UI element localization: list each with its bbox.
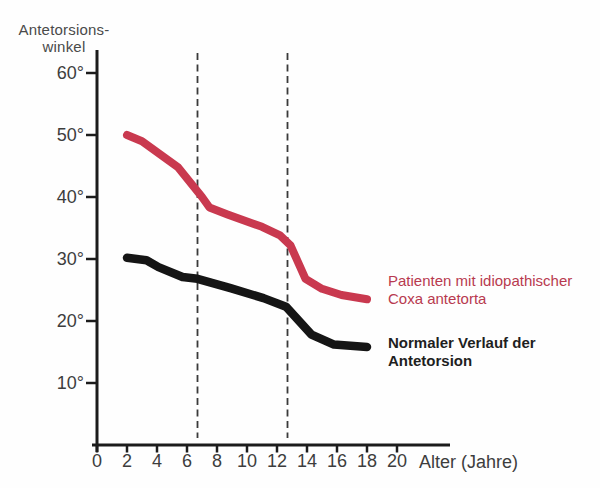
legend-black-line2: Antetorsion bbox=[388, 352, 536, 370]
y-tick-label: 10° bbox=[57, 373, 84, 393]
legend-red-line2: Coxa antetorta bbox=[388, 290, 572, 308]
y-tick-label: 60° bbox=[57, 63, 84, 83]
y-axis-title-line1: Antetorsions- bbox=[8, 21, 120, 38]
x-tick-label: 0 bbox=[92, 451, 102, 471]
x-axis-label: Alter (Jahre) bbox=[419, 452, 518, 473]
x-tick-label: 12 bbox=[267, 451, 287, 471]
x-tick-label: 18 bbox=[357, 451, 377, 471]
y-tick-label: 50° bbox=[57, 125, 84, 145]
chart-canvas: 60°50°40°30°20°10°02468101214161820 bbox=[0, 0, 600, 488]
y-axis-title: Antetorsions- winkel bbox=[8, 21, 120, 55]
x-tick-label: 6 bbox=[182, 451, 192, 471]
y-tick-label: 30° bbox=[57, 249, 84, 269]
y-tick-label: 20° bbox=[57, 311, 84, 331]
legend-black-series: Normaler Verlauf der Antetorsion bbox=[388, 334, 536, 370]
x-tick-label: 10 bbox=[237, 451, 257, 471]
x-tick-label: 2 bbox=[122, 451, 132, 471]
chart-figure: 60°50°40°30°20°10°02468101214161820 Ante… bbox=[0, 0, 600, 488]
legend-red-series: Patienten mit idiopathischer Coxa anteto… bbox=[388, 272, 572, 308]
x-tick-label: 4 bbox=[152, 451, 162, 471]
x-tick-label: 8 bbox=[212, 451, 222, 471]
y-axis-title-line2: winkel bbox=[8, 38, 120, 55]
legend-black-line1: Normaler Verlauf der bbox=[388, 334, 536, 352]
red-series-line bbox=[127, 135, 367, 299]
x-tick-label: 14 bbox=[297, 451, 317, 471]
legend-red-line1: Patienten mit idiopathischer bbox=[388, 272, 572, 290]
black-series-line bbox=[127, 258, 367, 347]
x-tick-label: 20 bbox=[387, 451, 407, 471]
x-tick-label: 16 bbox=[327, 451, 347, 471]
y-tick-label: 40° bbox=[57, 187, 84, 207]
